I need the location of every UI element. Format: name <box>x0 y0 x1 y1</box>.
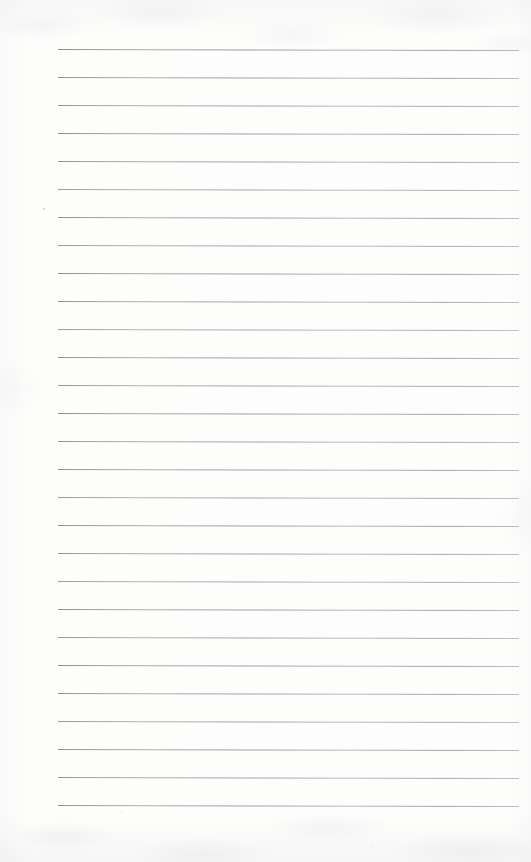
ruled-line <box>58 525 519 527</box>
ruled-lines-group <box>0 0 531 862</box>
ruled-line <box>58 665 519 667</box>
ruled-line <box>58 637 519 639</box>
ruled-line <box>58 469 519 471</box>
ruled-line <box>58 805 519 807</box>
ruled-line <box>58 161 519 163</box>
ruled-line <box>58 581 519 583</box>
ruled-line <box>58 77 519 79</box>
ruled-line <box>58 357 519 359</box>
paper-page: Blank ruled paper <box>0 0 531 862</box>
ruled-line <box>58 497 519 499</box>
ruled-line <box>58 217 519 219</box>
ruled-line <box>58 693 519 695</box>
ruled-line <box>58 385 519 387</box>
ruled-line <box>58 721 519 723</box>
ruled-line <box>58 49 519 51</box>
ruled-line <box>58 441 519 443</box>
ruled-line <box>58 245 519 247</box>
ruled-line <box>58 273 519 275</box>
ruled-line <box>58 777 519 779</box>
ruled-line <box>58 133 519 135</box>
ruled-line <box>58 749 519 751</box>
ruled-line <box>58 553 519 555</box>
ruled-line <box>58 105 519 107</box>
ruled-line <box>58 413 519 415</box>
ruled-line <box>58 329 519 331</box>
ruled-line <box>58 609 519 611</box>
ruled-line <box>58 301 519 303</box>
ruled-line <box>58 189 519 191</box>
